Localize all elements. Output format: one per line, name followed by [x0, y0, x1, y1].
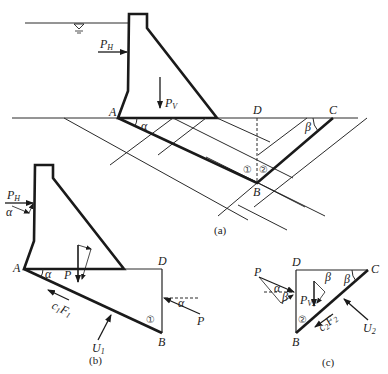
horizontal-force-label: PH [99, 37, 114, 52]
beta-label-c3: β [343, 272, 350, 286]
point-b-label: B [253, 185, 261, 199]
figure-b: PH α P α c1F1 U1 α P A D B ① (b) [5, 165, 205, 367]
block-1-label-b: ① [146, 314, 155, 325]
alpha-label-b2: α [45, 267, 52, 281]
figure-a: PH PV α β A D [12, 14, 367, 237]
point-b-label-b: B [158, 335, 166, 349]
point-d-label-b: D [157, 254, 167, 268]
block-1-label: ① [243, 164, 252, 175]
alpha-label-b3: α [178, 296, 185, 310]
component-arrow-b [12, 206, 29, 213]
resultant-force-label: P [63, 268, 72, 282]
point-a-label-b: A [12, 261, 21, 275]
block-2-label: ② [259, 164, 268, 175]
beta-arc [313, 118, 318, 131]
point-c-label-c: C [371, 262, 380, 276]
uplift-force-arrow-b [98, 315, 111, 340]
figure-c: P α β β PV2 β c2F2 U2 D C B ② (c) [253, 255, 380, 369]
beta-label: β [304, 120, 311, 134]
thrust-force-label-c: P [253, 265, 262, 279]
vertical-component-arrow [317, 292, 325, 303]
point-b-label-c: B [292, 335, 300, 349]
resultant-component-1 [78, 245, 91, 249]
alpha-label-b1: α [6, 205, 13, 219]
point-d-label-c: D [291, 255, 301, 269]
alpha-label: α [141, 119, 148, 133]
point-a-label: A [108, 105, 117, 119]
caption-c: (c) [322, 356, 335, 369]
beta-label-c2: β [324, 270, 331, 284]
point-c-label: C [329, 103, 338, 117]
caption-a: (a) [214, 224, 227, 237]
thrust-force-label-b: P [196, 314, 205, 328]
alpha-label-c: α [274, 281, 281, 295]
vertical-force-label: PV [164, 96, 178, 111]
dam-body-b [24, 165, 124, 269]
friction-force-label-b: c1F1 [49, 298, 74, 320]
resultant-component-2 [82, 249, 91, 279]
water-level-symbol [74, 24, 84, 33]
caption-b: (b) [89, 354, 102, 367]
horizontal-force-label-b: PH [6, 188, 21, 203]
rock-joints-ab-direction [64, 118, 325, 230]
block-2-label-c: ② [298, 314, 307, 325]
component-arrow-b2 [29, 204, 33, 213]
uplift-force-arrow-c [344, 299, 368, 320]
point-d-label: D [252, 103, 262, 117]
uplift-force-label-c: U2 [363, 321, 376, 336]
dam-stability-diagram: PH PV α β A D [0, 0, 388, 374]
vertical-component-line [314, 281, 325, 292]
beta-label-c1: β [281, 290, 288, 304]
slide-surface-abc [118, 118, 333, 183]
